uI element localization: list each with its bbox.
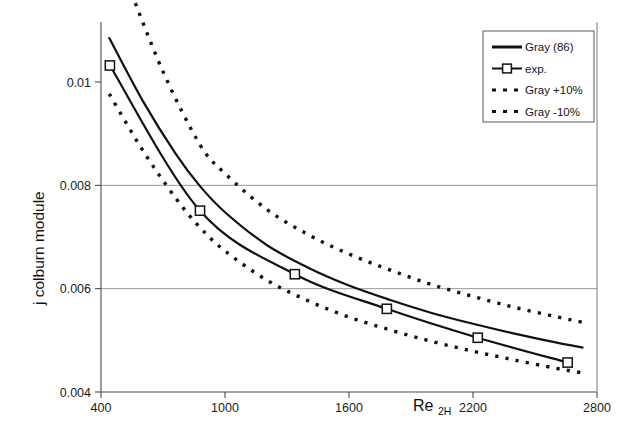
data-point-marker xyxy=(195,206,204,215)
y-tick-label: 0.004 xyxy=(60,386,91,400)
data-point-marker xyxy=(290,270,299,279)
x-tick-label: 2800 xyxy=(583,401,611,415)
legend-label: Gray +10% xyxy=(525,84,583,96)
y-tick-label: 0.01 xyxy=(67,76,91,90)
x-tick-label: 1000 xyxy=(211,401,239,415)
chart-figure: 4001000160022002800 0.0040.0060.0080.01 … xyxy=(0,0,635,439)
legend-swatch-marker xyxy=(503,64,512,73)
legend-label: Gray (86) xyxy=(525,41,574,53)
y-axis-title: j colburn module xyxy=(30,191,47,306)
colburn-module-chart: 4001000160022002800 0.0040.0060.0080.01 … xyxy=(0,0,635,439)
data-point-marker xyxy=(473,333,482,342)
x-tick-label: 2200 xyxy=(459,401,487,415)
x-tick-label: 400 xyxy=(91,401,112,415)
data-point-marker xyxy=(105,61,114,70)
data-point-marker xyxy=(563,358,572,367)
x-axis-title-base: Re xyxy=(413,397,434,414)
legend-label: exp. xyxy=(525,63,547,75)
data-point-marker xyxy=(382,304,391,313)
y-tick-label: 0.008 xyxy=(60,179,91,193)
chart-legend: Gray (86)exp.Gray +10%Gray -10% xyxy=(483,31,594,122)
x-tick-label: 1600 xyxy=(335,401,363,415)
legend-label: Gray -10% xyxy=(525,106,580,118)
x-axis-title-subscript: 2H xyxy=(438,405,451,417)
y-tick-label: 0.006 xyxy=(60,282,91,296)
